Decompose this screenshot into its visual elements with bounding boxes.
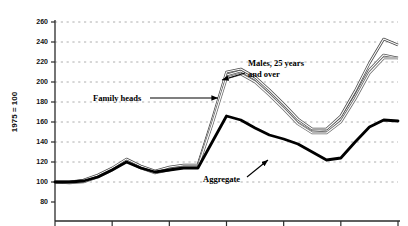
- annotation-family-heads: Family heads: [93, 93, 142, 103]
- y-axis-ticks: 80100120140160180200220240260: [36, 18, 55, 205]
- annotation-males-line1: Males, 25 years: [248, 58, 305, 68]
- y-axis-tick-label: 80: [40, 198, 48, 205]
- y-axis-tick-label: 240: [36, 38, 48, 45]
- y-axis-tick-label: 160: [36, 118, 48, 125]
- y-axis-tick-label: 100: [36, 178, 48, 185]
- y-axis-tick-label: 180: [36, 98, 48, 105]
- y-axis-tick-label: 260: [36, 18, 48, 25]
- y-axis-tick-label: 120: [36, 158, 48, 165]
- annotation-aggregate: Aggregate: [203, 174, 240, 184]
- y-axis-tick-label: 220: [36, 58, 48, 65]
- chart-figure: 80100120140160180200220240260 1975 = 100…: [0, 0, 408, 226]
- annotation-males-line2: and over: [248, 69, 280, 79]
- y-axis-tick-label: 200: [36, 78, 48, 85]
- line-chart-canvas: 80100120140160180200220240260 1975 = 100…: [0, 0, 408, 226]
- y-axis-tick-label: 140: [36, 138, 48, 145]
- y-axis-title: 1975 = 100: [10, 91, 19, 132]
